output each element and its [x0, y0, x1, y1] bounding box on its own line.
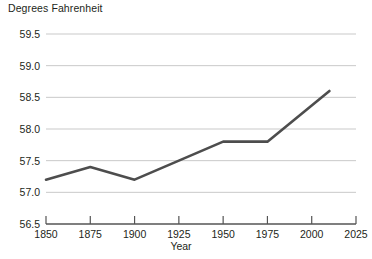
- x-axis-tick-marks: [46, 216, 356, 224]
- x-axis-title: Year: [0, 240, 362, 252]
- data-series-line: [46, 91, 329, 180]
